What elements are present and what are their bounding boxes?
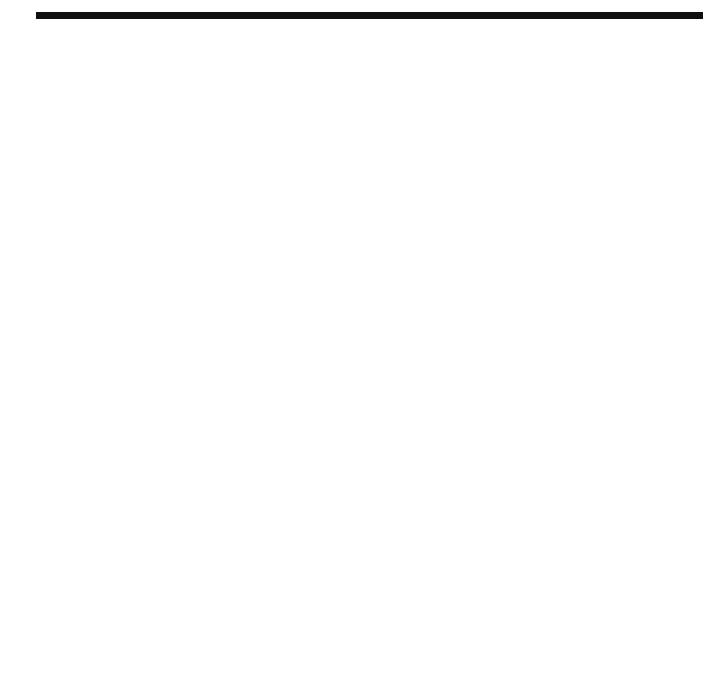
punched-tin-pattern-figure <box>0 0 724 688</box>
frame <box>37 37 697 305</box>
